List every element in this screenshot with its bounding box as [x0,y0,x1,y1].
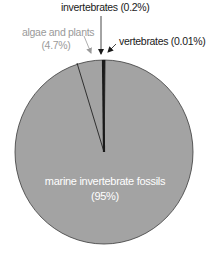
label-algae-name: algae and plants [22,26,90,39]
label-marine-name: marine invertebrate fossils [40,174,170,189]
label-invertebrates: invertebrates (0.2%) [61,1,150,14]
arrow-vertebrates [108,44,116,52]
label-marine-invertebrate-fossils: marine invertebrate fossils (95%) [40,174,170,204]
label-vertebrates: vertebrates (0.01%) [119,35,206,48]
label-algae-and-plants: algae and plants (4.7%) [22,26,90,52]
pie-slice-invertebrates-edge [103,60,104,152]
label-marine-value: (95%) [40,189,170,204]
label-algae-value: (4.7%) [22,39,90,52]
